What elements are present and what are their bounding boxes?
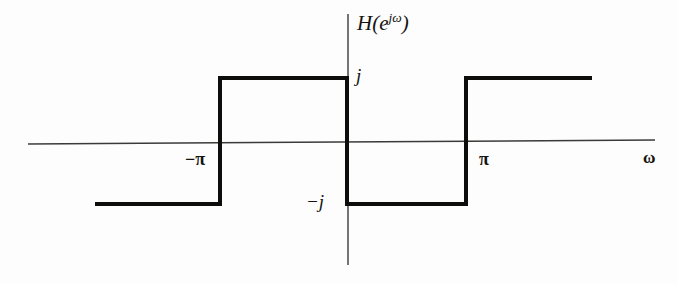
x-axis-label-omega: ω — [643, 149, 655, 166]
x-axis-line — [28, 140, 655, 144]
transfer-function-label: H(ejω) — [357, 13, 409, 34]
plot-canvas — [0, 0, 678, 284]
transfer-function-tail: ) — [402, 11, 409, 35]
transfer-function-exponent: jω — [388, 10, 401, 25]
frequency-response-figure: H(ejω) j −j −π π ω — [0, 0, 678, 284]
x-tick-label-pi: π — [479, 150, 489, 168]
transfer-function-head: H(e — [357, 11, 388, 35]
x-tick-label-negative-pi: −π — [185, 150, 205, 168]
y-tick-label-positive-j: j — [356, 66, 361, 85]
y-tick-label-negative-j: −j — [306, 192, 324, 211]
